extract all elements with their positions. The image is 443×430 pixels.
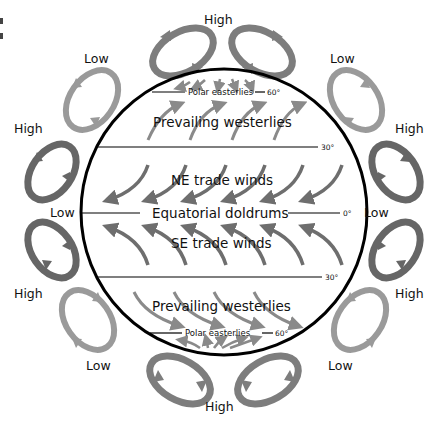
- label-south-polar-easterlies: Polar easterlies: [185, 328, 251, 338]
- cell-right-lower-light: [323, 280, 397, 359]
- cell-right-upper-dark: [362, 135, 430, 209]
- south-polar-easterly-arrows: [180, 338, 258, 348]
- label-south-westerlies: Prevailing westerlies: [152, 298, 291, 314]
- cell-left-upper-light: [55, 60, 129, 139]
- label-low-right-lower: Low: [328, 358, 353, 373]
- label-low-right-equator: Low: [364, 205, 389, 220]
- label-north-polar-easterlies: Polar easterlies: [188, 87, 254, 97]
- label-ne-trades: NE trade winds: [171, 172, 273, 188]
- label-low-left-upper: Low: [84, 51, 109, 66]
- cell-right-lower-dark: [362, 213, 430, 287]
- label-lat-60n: 60°: [267, 88, 281, 97]
- label-high-left-upper: High: [14, 121, 43, 136]
- label-lat-60s: 60°: [275, 329, 289, 338]
- label-equatorial-doldrums: Equatorial doldrums: [152, 205, 289, 221]
- label-lat-30s: 30°: [325, 273, 339, 282]
- cell-left-lower-dark: [18, 213, 86, 287]
- label-high-bottom: High: [205, 399, 234, 414]
- cell-left-lower-light: [51, 280, 125, 359]
- label-low-left-equator: Low: [50, 205, 75, 220]
- cell-left-upper-dark: [18, 135, 86, 209]
- label-low-left-lower: Low: [86, 358, 111, 373]
- label-low-right-upper: Low: [330, 51, 355, 66]
- label-se-trades: SE trade winds: [171, 235, 272, 251]
- label-high-top: High: [204, 12, 233, 27]
- label-high-left-lower: High: [14, 286, 43, 301]
- label-north-westerlies: Prevailing westerlies: [153, 114, 292, 130]
- label-high-right-lower: High: [395, 286, 424, 301]
- label-lat-30n: 30°: [321, 143, 335, 152]
- circulation-diagram: Polar easterlies 60° Prevailing westerli…: [0, 0, 443, 430]
- cell-right-upper-light: [319, 60, 393, 139]
- cell-bottom-right: [229, 346, 306, 414]
- label-high-right-upper: High: [395, 121, 424, 136]
- label-equator: 0°: [343, 209, 352, 218]
